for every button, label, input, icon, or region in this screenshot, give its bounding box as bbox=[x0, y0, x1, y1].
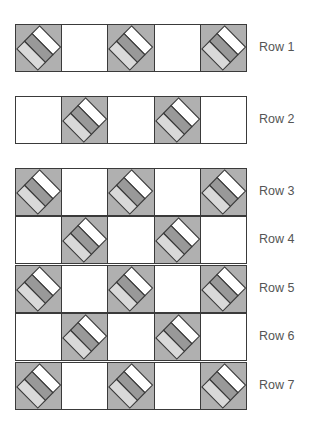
plain-square-block bbox=[154, 362, 201, 410]
plain-square-block bbox=[154, 265, 201, 313]
plain-square-block bbox=[61, 265, 108, 313]
plain-square-block bbox=[61, 362, 108, 410]
quilt-row-5 bbox=[15, 265, 246, 313]
row-label: Row 3 bbox=[259, 184, 294, 198]
plain-square-block bbox=[15, 96, 62, 144]
row-label: Row 2 bbox=[259, 112, 294, 126]
plain-square-block bbox=[15, 216, 62, 264]
quilt-row-7 bbox=[15, 362, 246, 410]
plain-square-block bbox=[200, 96, 247, 144]
plain-square-block bbox=[154, 24, 201, 72]
pieced-diamond-block bbox=[107, 362, 154, 410]
pieced-diamond-block bbox=[61, 96, 108, 144]
quilt-row-1 bbox=[15, 24, 246, 72]
plain-square-block bbox=[61, 24, 108, 72]
pieced-diamond-block bbox=[15, 362, 62, 410]
plain-square-block bbox=[107, 313, 154, 361]
row-label: Row 6 bbox=[259, 329, 294, 343]
row-label: Row 7 bbox=[259, 378, 294, 392]
plain-square-block bbox=[200, 313, 247, 361]
pieced-diamond-block bbox=[107, 265, 154, 313]
pieced-diamond-block bbox=[107, 24, 154, 72]
plain-square-block bbox=[61, 168, 108, 216]
pieced-diamond-block bbox=[61, 313, 108, 361]
pieced-diamond-block bbox=[154, 96, 201, 144]
plain-square-block bbox=[154, 168, 201, 216]
pieced-diamond-block bbox=[61, 216, 108, 264]
pieced-diamond-block bbox=[15, 168, 62, 216]
quilt-row-4 bbox=[15, 216, 246, 264]
pieced-diamond-block bbox=[200, 24, 247, 72]
row-label: Row 1 bbox=[259, 40, 294, 54]
pieced-diamond-block bbox=[200, 168, 247, 216]
pieced-diamond-block bbox=[200, 362, 247, 410]
plain-square-block bbox=[107, 96, 154, 144]
quilt-row-6 bbox=[15, 313, 246, 361]
plain-square-block bbox=[200, 216, 247, 264]
pieced-diamond-block bbox=[200, 265, 247, 313]
plain-square-block bbox=[107, 216, 154, 264]
quilt-row-3 bbox=[15, 168, 246, 216]
quilt-row-2 bbox=[15, 96, 246, 144]
plain-square-block bbox=[15, 313, 62, 361]
row-label: Row 4 bbox=[259, 232, 294, 246]
pieced-diamond-block bbox=[15, 24, 62, 72]
row-label: Row 5 bbox=[259, 281, 294, 295]
pieced-diamond-block bbox=[154, 313, 201, 361]
pieced-diamond-block bbox=[107, 168, 154, 216]
pieced-diamond-block bbox=[15, 265, 62, 313]
pieced-diamond-block bbox=[154, 216, 201, 264]
